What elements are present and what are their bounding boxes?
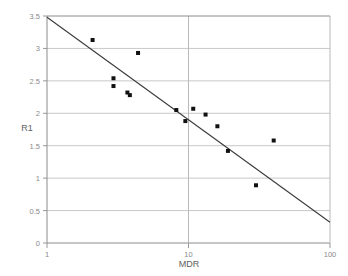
data-point bbox=[111, 84, 115, 88]
chart-container: 110100 00.511.522.533.5 R1 MDR bbox=[0, 0, 348, 276]
data-point bbox=[254, 183, 258, 187]
x-tick-label: 1 bbox=[45, 250, 49, 259]
data-point bbox=[183, 119, 187, 123]
y-tick-label: 1.5 bbox=[30, 142, 40, 151]
data-point bbox=[215, 124, 219, 128]
data-point bbox=[128, 93, 132, 97]
scatter-plot-svg: 110100 00.511.522.533.5 R1 MDR bbox=[0, 0, 348, 276]
y-tick-label: 0.5 bbox=[30, 207, 40, 216]
x-tick-label: 100 bbox=[324, 250, 337, 259]
data-point bbox=[204, 113, 208, 117]
x-axis-title: MDR bbox=[179, 259, 200, 269]
data-point bbox=[272, 139, 276, 143]
x-tick-label: 10 bbox=[184, 250, 192, 259]
plot-background bbox=[0, 0, 348, 276]
y-tick-label: 0 bbox=[36, 239, 40, 248]
data-point bbox=[191, 107, 195, 111]
data-point bbox=[136, 51, 140, 55]
data-point bbox=[111, 76, 115, 80]
y-tick-label: 3 bbox=[36, 44, 40, 53]
y-tick-label: 1 bbox=[36, 174, 40, 183]
y-tick-label: 2 bbox=[36, 109, 40, 118]
data-point bbox=[226, 149, 230, 153]
y-tick-label: 2.5 bbox=[30, 77, 40, 86]
y-axis-title: R1 bbox=[21, 123, 33, 133]
y-tick-label: 3.5 bbox=[30, 12, 40, 21]
data-point bbox=[174, 108, 178, 112]
data-point bbox=[91, 38, 95, 42]
